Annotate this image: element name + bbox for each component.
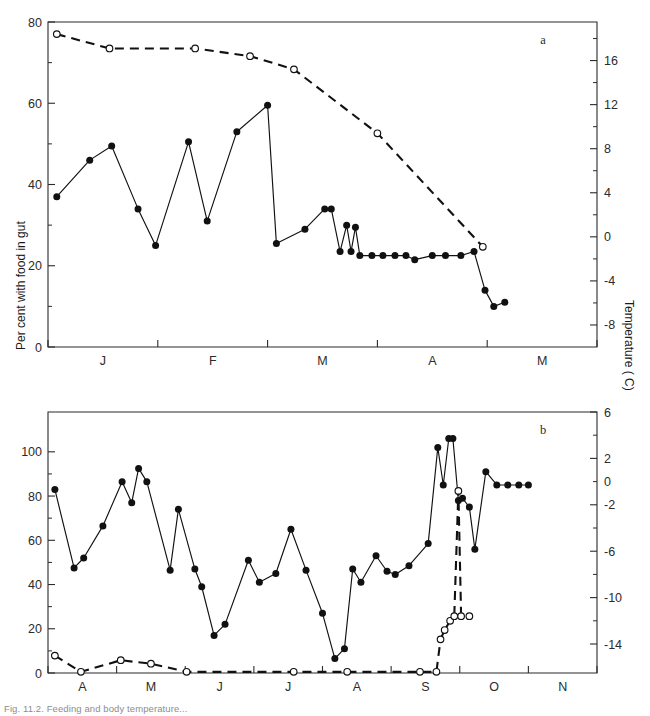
data-point-food-in-gut: [71, 564, 78, 571]
data-point-food-in-gut: [515, 481, 522, 488]
data-point-food-in-gut: [405, 562, 412, 569]
data-point-food-in-gut: [490, 303, 497, 310]
data-point-food-in-gut: [303, 567, 310, 574]
left-axis-tick-label: 0: [35, 667, 42, 681]
data-point-food-in-gut: [99, 522, 106, 529]
data-point-temperature: [417, 669, 424, 676]
data-point-food-in-gut: [191, 566, 198, 573]
left-axis-tick-label: 80: [28, 490, 42, 504]
x-axis-month-label: F: [209, 354, 217, 368]
data-point-food-in-gut: [185, 138, 192, 145]
data-point-food-in-gut: [341, 645, 348, 652]
data-point-food-in-gut: [80, 554, 87, 561]
right-axis-tick-label: -10: [604, 591, 622, 605]
data-point-food-in-gut: [328, 205, 335, 212]
data-point-temperature: [455, 488, 462, 495]
data-point-food-in-gut: [449, 435, 456, 442]
panel-b-svg: 02040608010062-2-6-10-140AMJJASONb: [0, 390, 650, 716]
data-point-food-in-gut: [175, 506, 182, 513]
data-point-food-in-gut: [135, 465, 142, 472]
data-point-food-in-gut: [411, 256, 418, 263]
data-point-food-in-gut: [357, 579, 364, 586]
data-point-food-in-gut: [356, 252, 363, 259]
data-point-temperature: [480, 243, 487, 250]
data-point-food-in-gut: [343, 222, 350, 229]
panel-letter-a: a: [540, 33, 546, 47]
right-axis-tick-label: 4: [604, 186, 611, 200]
data-point-temperature: [183, 669, 190, 676]
data-point-temperature: [52, 652, 59, 659]
left-axis-tick-label: 60: [28, 97, 42, 111]
right-axis-tick-label: -2: [604, 498, 615, 512]
data-point-temperature: [344, 669, 351, 676]
data-point-food-in-gut: [167, 567, 174, 574]
data-point-food-in-gut: [384, 568, 391, 575]
data-point-food-in-gut: [86, 157, 93, 164]
data-point-food-in-gut: [459, 495, 466, 502]
data-point-temperature: [53, 31, 60, 38]
data-point-food-in-gut: [493, 481, 500, 488]
right-axis-tick-label: 0: [604, 230, 611, 244]
data-point-temperature: [374, 130, 381, 137]
data-point-temperature: [451, 613, 458, 620]
data-point-temperature: [192, 45, 199, 52]
chart-panel-a: 0204060801612840-4-8JFMAMa: [0, 0, 650, 390]
x-axis-month-label: S: [421, 680, 429, 694]
data-point-temperature: [247, 53, 254, 60]
data-point-temperature: [106, 45, 113, 52]
panel-letter-b: b: [540, 423, 546, 437]
data-point-food-in-gut: [108, 142, 115, 149]
data-point-temperature: [117, 657, 124, 664]
chart-panel-b: 02040608010062-2-6-10-140AMJJASONb: [0, 390, 650, 716]
right-axis-tick-label: -14: [604, 638, 622, 652]
figure-caption: Fig. 11.2. Feeding and body temperature.…: [4, 703, 434, 716]
left-axis-tick-label: 20: [28, 622, 42, 636]
right-axis-zero-label: 0: [604, 475, 611, 489]
data-point-food-in-gut: [466, 504, 473, 511]
data-point-food-in-gut: [457, 252, 464, 259]
data-point-food-in-gut: [245, 557, 252, 564]
data-point-temperature: [78, 669, 85, 676]
data-point-temperature: [148, 660, 155, 667]
data-point-food-in-gut: [143, 478, 150, 485]
data-point-food-in-gut: [287, 526, 294, 533]
data-point-food-in-gut: [525, 481, 532, 488]
left-axis-tick-label: 80: [28, 16, 42, 30]
data-point-food-in-gut: [53, 193, 60, 200]
data-point-food-in-gut: [482, 287, 489, 294]
data-point-food-in-gut: [379, 252, 386, 259]
data-point-temperature: [441, 627, 448, 634]
data-point-food-in-gut: [273, 240, 280, 247]
data-point-food-in-gut: [204, 218, 211, 225]
left-axis-tick-label: 60: [28, 534, 42, 548]
data-point-food-in-gut: [256, 579, 263, 586]
x-axis-month-label: A: [428, 354, 437, 368]
right-axis-tick-label: 8: [604, 142, 611, 156]
x-axis-month-label: A: [78, 680, 87, 694]
data-point-food-in-gut: [482, 468, 489, 475]
data-point-food-in-gut: [352, 224, 359, 231]
data-point-food-in-gut: [233, 128, 240, 135]
x-axis-month-label: M: [537, 354, 547, 368]
data-point-food-in-gut: [349, 566, 356, 573]
data-point-food-in-gut: [331, 655, 338, 662]
right-axis-tick-label: 16: [604, 54, 618, 68]
data-point-food-in-gut: [51, 486, 58, 493]
figure-container: 0204060801612840-4-8JFMAMa 0204060801006…: [0, 0, 650, 716]
data-point-food-in-gut: [440, 481, 447, 488]
data-point-food-in-gut: [119, 478, 126, 485]
plot-frame: [48, 412, 597, 673]
data-point-food-in-gut: [434, 444, 441, 451]
data-point-food-in-gut: [348, 248, 355, 255]
right-axis-tick-label: -8: [604, 318, 615, 332]
left-axis-title: Per cent with food in gut: [14, 221, 28, 350]
x-axis-month-label: M: [146, 680, 156, 694]
x-axis-month-label: A: [353, 680, 362, 694]
data-point-food-in-gut: [301, 226, 308, 233]
x-axis-month-label: M: [317, 354, 327, 368]
data-point-food-in-gut: [337, 248, 344, 255]
data-point-food-in-gut: [429, 252, 436, 259]
right-axis-tick-label: 2: [604, 452, 611, 466]
data-point-temperature: [290, 669, 297, 676]
data-point-food-in-gut: [471, 248, 478, 255]
